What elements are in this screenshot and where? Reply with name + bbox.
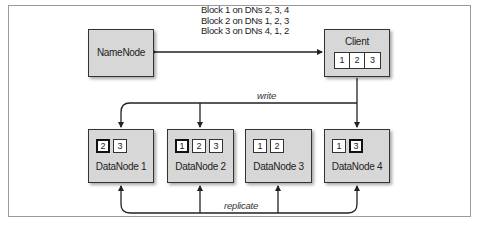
write-arrow-dn1 [121,103,357,127]
datanode-3: 1 2 DataNode 3 [245,129,312,183]
block: 3 [113,139,127,153]
datanode-4: 1 3 DataNode 4 [324,129,390,183]
block: 3 [209,139,223,153]
block: 1 [332,139,346,153]
datanode-blocks: 1 3 [332,139,366,153]
datanode-label: DataNode 3 [246,161,311,172]
replicate-arrow-dn1 [121,186,130,213]
write-label: write [257,90,276,101]
datanode-blocks: 1 2 3 [175,139,226,153]
namenode-box: NameNode [88,29,154,77]
block: 2 [270,139,284,153]
datanode-label: DataNode 2 [168,161,233,172]
datanode-label: DataNode 1 [89,161,153,172]
block-primary: 1 [175,139,189,153]
block-primary: 2 [96,139,110,153]
block: 2 [192,139,206,153]
block: 3 [365,53,380,68]
datanode-2: 1 2 3 DataNode 2 [167,129,234,183]
datanode-1: 2 3 DataNode 1 [88,129,154,183]
namenode-label: NameNode [89,47,153,58]
datanode-label: DataNode 4 [325,161,389,172]
client-box: Client 1 2 3 [324,29,390,77]
metadata-line: Block 3 on DNs 4, 1, 2 [190,26,300,37]
block: 1 [335,53,350,68]
block: 2 [350,53,365,68]
client-label: Client [325,36,389,47]
datanode-blocks: 2 3 [96,139,130,153]
metadata-line: Block 1 on DNs 2, 3, 4 [190,5,300,16]
client-blocks: 1 2 3 [334,52,381,69]
block-primary: 3 [349,139,363,153]
block-metadata: Block 1 on DNs 2, 3, 4 Block 2 on DNs 1,… [190,5,300,37]
datanode-blocks: 1 2 [253,139,287,153]
replicate-label: replicate [224,200,258,211]
block: 1 [253,139,267,153]
